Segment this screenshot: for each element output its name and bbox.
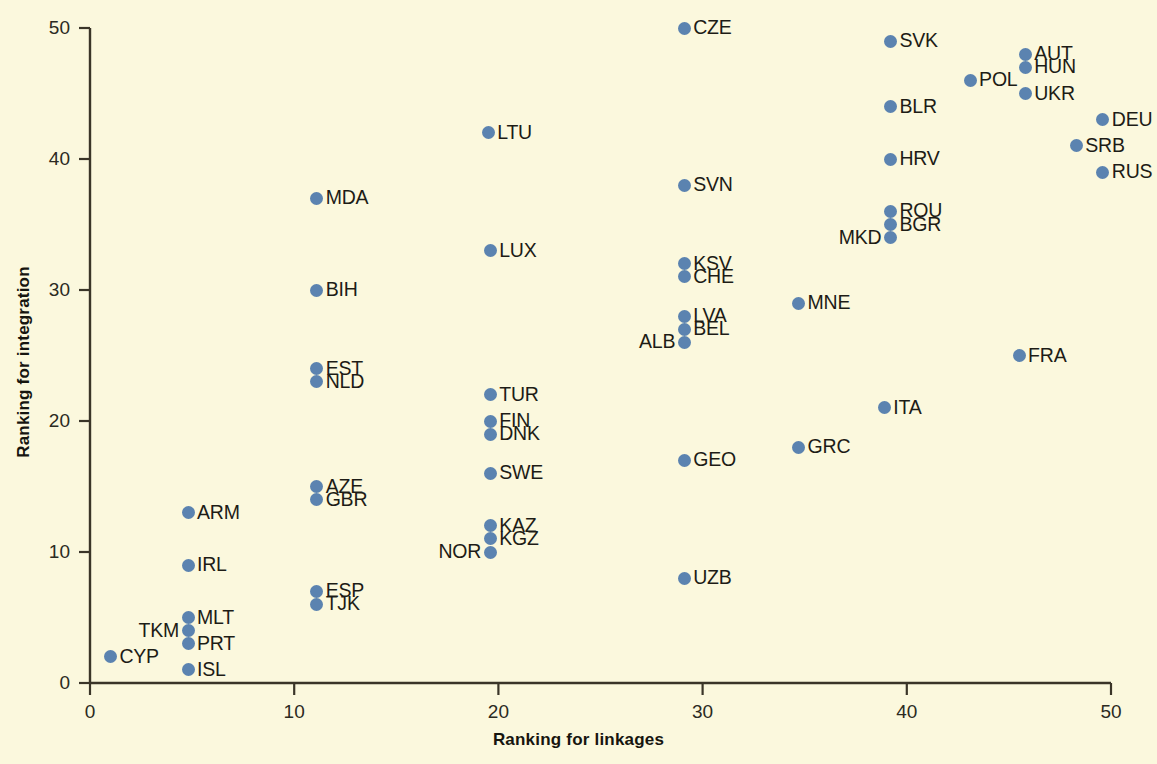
- data-point-label-nor: NOR: [438, 542, 481, 562]
- data-point-label-tkm: TKM: [138, 621, 179, 641]
- data-point-kaz[interactable]: [484, 519, 497, 532]
- data-point-fin[interactable]: [484, 415, 497, 428]
- data-point-svn[interactable]: [678, 179, 691, 192]
- data-point-label-mkd: MKD: [839, 228, 882, 248]
- data-point-tur[interactable]: [484, 388, 497, 401]
- data-point-label-pol: POL: [979, 70, 1017, 90]
- data-point-label-svn: SVN: [693, 175, 733, 195]
- data-point-label-bih: BIH: [326, 280, 358, 300]
- x-tick-label-20: 20: [458, 701, 538, 723]
- data-point-label-aut: AUT: [1034, 44, 1072, 64]
- data-point-svk[interactable]: [884, 35, 897, 48]
- data-point-label-ukr: UKR: [1034, 84, 1075, 104]
- data-point-label-lux: LUX: [499, 241, 536, 261]
- y-tick-label-0: 0: [0, 672, 70, 694]
- data-point-label-fin: FIN: [499, 411, 530, 431]
- data-point-bgr[interactable]: [884, 218, 897, 231]
- x-tick-label-0: 0: [50, 701, 130, 723]
- data-point-geo[interactable]: [678, 454, 691, 467]
- data-point-label-geo: GEO: [693, 450, 736, 470]
- data-point-aut[interactable]: [1019, 48, 1032, 61]
- data-point-mda[interactable]: [310, 192, 323, 205]
- data-point-esp[interactable]: [310, 585, 323, 598]
- data-point-label-aze: AZE: [326, 477, 363, 497]
- y-tick-label-20: 20: [0, 410, 70, 432]
- data-point-hun[interactable]: [1019, 61, 1032, 74]
- data-point-pol[interactable]: [964, 74, 977, 87]
- data-point-rus[interactable]: [1096, 166, 1109, 179]
- data-point-bih[interactable]: [310, 284, 323, 297]
- data-point-lva[interactable]: [678, 310, 691, 323]
- data-point-alb[interactable]: [678, 336, 691, 349]
- data-point-label-blr: BLR: [899, 97, 936, 117]
- data-point-mne[interactable]: [792, 297, 805, 310]
- data-point-label-alb: ALB: [639, 332, 675, 352]
- x-tick-label-10: 10: [254, 701, 334, 723]
- data-point-swe[interactable]: [484, 467, 497, 480]
- data-point-ksv[interactable]: [678, 257, 691, 270]
- data-point-label-rus: RUS: [1112, 162, 1153, 182]
- data-point-label-deu: DEU: [1112, 110, 1153, 130]
- data-point-nor[interactable]: [484, 546, 497, 559]
- y-tick-label-50: 50: [0, 17, 70, 39]
- data-point-label-mlt: MLT: [197, 608, 234, 628]
- data-point-mkd[interactable]: [884, 231, 897, 244]
- y-tick-label-30: 30: [0, 279, 70, 301]
- data-point-label-cze: CZE: [693, 18, 731, 38]
- data-point-arm[interactable]: [182, 506, 195, 519]
- data-point-isl[interactable]: [182, 663, 195, 676]
- data-point-label-hrv: HRV: [899, 149, 939, 169]
- data-point-label-srb: SRB: [1085, 136, 1125, 156]
- data-point-label-rou: ROU: [899, 201, 942, 221]
- plot-axes-svg: [0, 0, 1157, 764]
- data-point-label-irl: IRL: [197, 555, 227, 575]
- data-point-label-swe: SWE: [499, 463, 543, 483]
- data-point-label-mda: MDA: [326, 188, 369, 208]
- data-point-tkm[interactable]: [182, 624, 195, 637]
- data-point-dnk[interactable]: [484, 428, 497, 441]
- data-point-label-svk: SVK: [899, 31, 937, 51]
- data-point-rou[interactable]: [884, 205, 897, 218]
- data-point-prt[interactable]: [182, 637, 195, 650]
- data-point-grc[interactable]: [792, 441, 805, 454]
- scatter-plot-figure: 0102030405001020304050 CYPISLPRTTKMMLTIR…: [0, 0, 1157, 764]
- data-point-uzb[interactable]: [678, 572, 691, 585]
- x-tick-label-50: 50: [1071, 701, 1151, 723]
- data-point-label-prt: PRT: [197, 634, 235, 654]
- data-point-label-fra: FRA: [1028, 346, 1066, 366]
- x-axis-title: Ranking for linkages: [0, 730, 1157, 750]
- data-point-mlt[interactable]: [182, 611, 195, 624]
- data-point-label-ltu: LTU: [497, 123, 532, 143]
- data-point-label-mne: MNE: [808, 293, 851, 313]
- data-point-blr[interactable]: [884, 100, 897, 113]
- data-point-ukr[interactable]: [1019, 87, 1032, 100]
- data-point-tjk[interactable]: [310, 598, 323, 611]
- x-tick-label-30: 30: [663, 701, 743, 723]
- data-point-ltu[interactable]: [482, 126, 495, 139]
- data-point-label-grc: GRC: [808, 437, 851, 457]
- data-point-label-est: EST: [326, 359, 363, 379]
- data-point-label-ksv: KSV: [693, 254, 731, 274]
- data-point-label-esp: ESP: [326, 581, 364, 601]
- y-tick-label-10: 10: [0, 541, 70, 563]
- data-point-cze[interactable]: [678, 22, 691, 35]
- data-point-label-lva: LVA: [693, 306, 726, 326]
- data-point-label-arm: ARM: [197, 503, 240, 523]
- y-axis-title: Ranking for integration: [14, 252, 34, 472]
- x-tick-label-40: 40: [867, 701, 947, 723]
- data-point-label-isl: ISL: [197, 660, 226, 680]
- data-point-lux[interactable]: [484, 244, 497, 257]
- data-point-bel[interactable]: [678, 323, 691, 336]
- data-point-label-kaz: KAZ: [499, 516, 536, 536]
- data-point-label-uzb: UZB: [693, 568, 731, 588]
- data-point-hrv[interactable]: [884, 153, 897, 166]
- y-tick-label-40: 40: [0, 148, 70, 170]
- data-point-label-cyp: CYP: [119, 647, 159, 667]
- data-point-label-ita: ITA: [893, 398, 921, 418]
- data-point-fra[interactable]: [1013, 349, 1026, 362]
- data-point-irl[interactable]: [182, 559, 195, 572]
- data-point-label-tur: TUR: [499, 385, 538, 405]
